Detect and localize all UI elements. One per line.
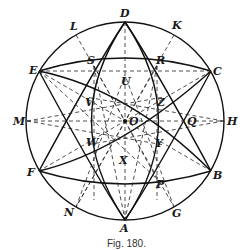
label-Y: Y [155,137,164,150]
label-G: G [172,207,181,220]
label-D: D [119,7,130,20]
label-E: E [28,64,38,77]
label-C: C [213,65,222,78]
label-B: B [212,169,222,182]
label-Q: Q [187,115,197,128]
geometric-figure: D K C H B G A N F M E L S R U V Z O Q W … [0,0,245,250]
label-V: V [85,96,95,109]
label-H: H [226,115,238,128]
label-F: F [26,166,36,179]
label-K: K [171,19,182,32]
label-Z: Z [156,96,166,109]
label-P: P [155,178,165,191]
figure-caption: Fig. 180. [107,238,146,249]
label-A: A [119,222,129,235]
label-W: W [86,136,100,149]
label-S: S [87,54,95,67]
label-O: O [129,115,139,128]
label-M: M [12,115,26,128]
label-N: N [63,206,75,219]
center-point [123,119,127,123]
label-U: U [121,75,132,88]
label-X: X [118,154,128,167]
label-R: R [155,54,165,67]
label-L: L [69,20,78,33]
